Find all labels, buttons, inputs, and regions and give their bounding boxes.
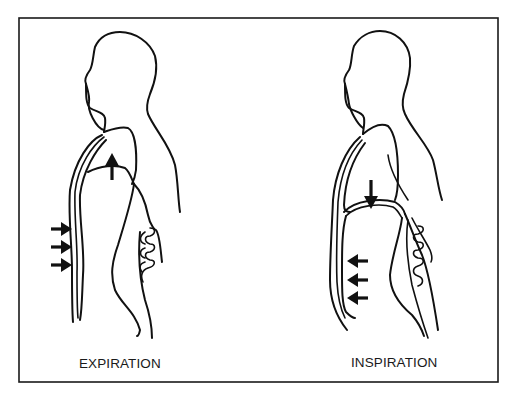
inspiration-label: INSPIRATION [351,355,437,370]
arrow-left-icon [347,254,368,268]
expiration-label: EXPIRATION [79,356,161,371]
expiration-head-outline [85,32,180,212]
inspiration-figure [330,31,442,338]
inspiration-spine-line [407,220,428,338]
breathing-diagram [0,0,514,395]
inspiration-diaphragm-inner [346,205,402,218]
expiration-chest-wall-outer [69,135,102,322]
diagram-frame [19,18,498,382]
inspiration-abdomen-front [342,216,355,318]
inspiration-lung [363,125,398,200]
expiration-figure [51,32,180,338]
expiration-abdomen-front [112,184,140,336]
arrow-left-icon [347,273,368,287]
expiration-intestine [142,228,155,282]
arrow-right-icon [51,222,72,236]
arrow-left-icon [347,291,368,305]
expiration-back-contour [134,184,162,262]
arrow-right-icon [51,240,72,254]
expiration-intestine-inner [140,232,145,272]
arrow-right-icon [51,258,72,272]
